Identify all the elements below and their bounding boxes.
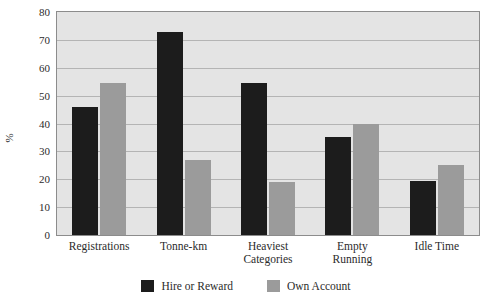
x-axis-category-label: Idle Time (395, 240, 479, 253)
bar (185, 160, 211, 235)
y-axis-tick-label: 60 (10, 62, 50, 73)
plot-area (56, 11, 480, 236)
legend-swatch-icon (141, 280, 154, 292)
x-axis-category-label: Tonne-km (141, 240, 225, 253)
legend-item[interactable]: Hire or Reward (141, 280, 233, 292)
bar (410, 181, 436, 235)
gridline (57, 40, 479, 41)
bar (325, 137, 351, 235)
x-axis-category-label: Registrations (57, 240, 141, 253)
legend-label: Hire or Reward (161, 280, 233, 292)
chart-legend: Hire or RewardOwn Account (0, 280, 492, 292)
bar (353, 124, 379, 236)
bar (438, 165, 464, 235)
legend-label: Own Account (287, 280, 351, 292)
y-axis-tick-label: 80 (10, 7, 50, 18)
y-axis-tick-label: 20 (10, 174, 50, 185)
y-axis-tick-label: 10 (10, 202, 50, 213)
y-axis-tick-label: 40 (10, 118, 50, 129)
bar (100, 83, 126, 235)
y-axis-tick-label: 0 (10, 230, 50, 241)
gridline (57, 68, 479, 69)
x-axis-category-label: Heaviest Categories (226, 240, 310, 266)
bar (72, 107, 98, 235)
y-axis-tick-label: 30 (10, 146, 50, 157)
y-axis-title: % (0, 131, 19, 145)
bar (269, 182, 295, 235)
legend-item[interactable]: Own Account (267, 280, 351, 292)
legend-swatch-icon (267, 280, 280, 292)
bar-chart: % 01020304050607080 RegistrationsTonne-k… (0, 0, 492, 306)
y-axis-tick-label: 50 (10, 90, 50, 101)
y-axis-tick-label: 70 (10, 34, 50, 45)
bar (241, 83, 267, 235)
x-axis-category-label: Empty Running (310, 240, 394, 266)
bar (157, 32, 183, 235)
